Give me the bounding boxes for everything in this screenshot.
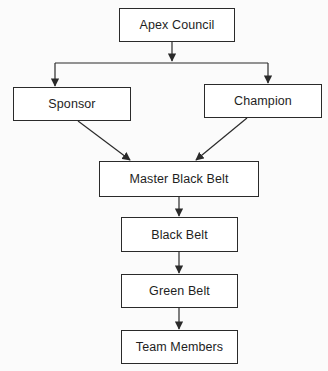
node-label: Green Belt [149,284,210,298]
org-hierarchy-diagram: Apex Council Sponsor Champion Master Bla… [0,0,328,371]
node-champion: Champion [204,84,322,118]
node-label: Black Belt [151,228,208,242]
node-label: Team Members [136,340,223,354]
node-label: Master Black Belt [130,172,229,186]
node-label: Apex Council [140,18,215,32]
node-label: Champion [234,94,292,108]
edge-champion-to-mbb [196,118,247,160]
node-apex-council: Apex Council [119,8,235,42]
node-master-black-belt: Master Black Belt [99,161,259,197]
edge-sponsor-to-mbb [78,121,130,160]
node-sponsor: Sponsor [13,87,131,121]
node-label: Sponsor [48,97,95,111]
node-black-belt: Black Belt [121,217,238,252]
node-green-belt: Green Belt [121,274,238,308]
node-team-members: Team Members [121,330,238,364]
